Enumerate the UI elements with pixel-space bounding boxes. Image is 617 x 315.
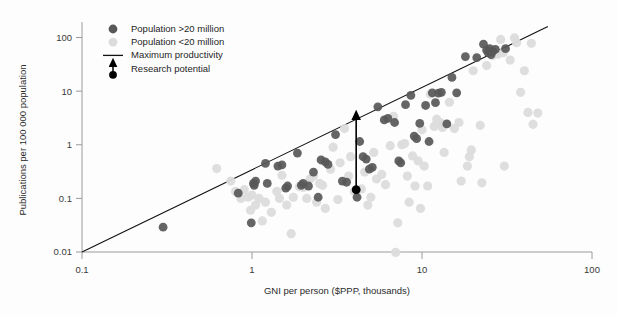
x-tick-label: 1 bbox=[249, 264, 254, 275]
y-axis-ticks: 0.010.1110100 bbox=[54, 32, 83, 258]
y-tick-label: 10 bbox=[61, 86, 72, 97]
scatter-point bbox=[437, 88, 446, 97]
scatter-point bbox=[353, 193, 362, 202]
scatter-point bbox=[362, 155, 371, 164]
y-tick-label: 0.01 bbox=[54, 246, 73, 257]
legend-marker-circle bbox=[109, 38, 118, 47]
scatter-point bbox=[506, 55, 515, 64]
scatter-point bbox=[314, 193, 323, 202]
scatter-point bbox=[234, 189, 243, 198]
y-axis-title: Publications per 100 000 population bbox=[17, 64, 28, 215]
scatter-points-large-population bbox=[159, 40, 510, 232]
scatter-point bbox=[263, 179, 272, 188]
scatter-point bbox=[463, 161, 472, 170]
scatter-point bbox=[289, 193, 298, 202]
scatter-point bbox=[415, 119, 424, 128]
scatter-point bbox=[469, 66, 478, 75]
scatter-point bbox=[277, 171, 286, 180]
scatter-point bbox=[405, 198, 414, 207]
scatter-point bbox=[226, 177, 235, 186]
scatter-point bbox=[528, 120, 537, 129]
scatter-point bbox=[393, 218, 402, 227]
scatter-point bbox=[159, 223, 168, 232]
scatter-point bbox=[406, 91, 415, 100]
scatter-point bbox=[261, 198, 270, 207]
scatter-point bbox=[261, 159, 270, 168]
scatter-point bbox=[401, 100, 410, 109]
scatter-point bbox=[423, 181, 432, 190]
scatter-plot-svg: 0.010.1110100 0.1110100 GNI per person (… bbox=[0, 0, 617, 315]
scatter-point bbox=[342, 178, 351, 187]
scatter-point bbox=[527, 39, 536, 48]
scatter-point bbox=[425, 137, 434, 146]
scatter-point bbox=[421, 101, 430, 110]
scatter-point bbox=[390, 118, 399, 127]
legend-label: Maximum productivity bbox=[131, 49, 223, 60]
scatter-point bbox=[366, 193, 375, 202]
chart-legend: Population >20 millionPopulation <20 mil… bbox=[103, 23, 224, 79]
scatter-point bbox=[282, 200, 291, 209]
scatter-point bbox=[275, 194, 284, 203]
scatter-point bbox=[467, 145, 476, 154]
scatter-point bbox=[346, 152, 355, 161]
scatter-point bbox=[496, 35, 505, 44]
scatter-point bbox=[304, 182, 313, 191]
scatter-point bbox=[440, 148, 449, 157]
scatter-point bbox=[247, 218, 256, 227]
x-tick-label: 100 bbox=[584, 264, 600, 275]
scatter-point bbox=[482, 61, 491, 70]
scatter-point bbox=[368, 163, 377, 172]
scatter-point bbox=[448, 73, 457, 82]
scatter-point bbox=[363, 200, 372, 209]
scatter-points-small-population bbox=[212, 33, 542, 257]
y-tick-label: 1 bbox=[67, 139, 72, 150]
scatter-point bbox=[331, 130, 340, 139]
scatter-point bbox=[476, 121, 485, 130]
x-axis-title: GNI per person ($PPP, thousands) bbox=[264, 285, 410, 296]
y-tick-label: 0.1 bbox=[59, 193, 72, 204]
scatter-point bbox=[391, 248, 400, 257]
scatter-point bbox=[377, 170, 386, 179]
legend-marker-circle bbox=[109, 25, 118, 34]
scatter-point bbox=[416, 204, 425, 213]
x-tick-label: 10 bbox=[417, 264, 428, 275]
scatter-point bbox=[510, 33, 519, 42]
scatter-point bbox=[369, 148, 378, 157]
x-tick-label: 0.1 bbox=[75, 264, 88, 275]
legend-label: Population <20 million bbox=[131, 36, 224, 47]
scatter-point bbox=[329, 143, 338, 152]
scatter-point bbox=[452, 88, 461, 97]
scatter-point bbox=[381, 180, 390, 189]
scatter-point bbox=[412, 134, 421, 143]
scatter-point bbox=[287, 229, 296, 238]
scatter-point bbox=[523, 108, 532, 117]
scatter-point bbox=[520, 66, 529, 75]
research-potential-base-dot bbox=[352, 185, 361, 194]
scatter-point bbox=[324, 160, 333, 169]
scatter-point bbox=[373, 102, 382, 111]
scatter-point bbox=[457, 177, 466, 186]
scatter-point bbox=[340, 124, 349, 133]
scatter-point bbox=[501, 44, 510, 53]
legend-label: Research potential bbox=[131, 63, 210, 74]
y-tick-label: 100 bbox=[56, 32, 72, 43]
scatter-point bbox=[251, 177, 260, 186]
scatter-point bbox=[461, 52, 470, 61]
scatter-point bbox=[278, 161, 287, 170]
scatter-point bbox=[442, 119, 451, 128]
scatter-point bbox=[516, 88, 525, 97]
scatter-point bbox=[293, 149, 302, 158]
scatter-point bbox=[491, 45, 500, 54]
scatter-point bbox=[396, 158, 405, 167]
scatter-point bbox=[500, 161, 509, 170]
scatter-point bbox=[336, 158, 345, 167]
scatter-point bbox=[410, 181, 419, 190]
legend-marker-arrow-dot bbox=[109, 71, 117, 79]
chart-figure: 0.010.1110100 0.1110100 GNI per person (… bbox=[0, 0, 617, 315]
scatter-point bbox=[267, 208, 276, 217]
scatter-point bbox=[333, 195, 342, 204]
scatter-point bbox=[420, 161, 429, 170]
scatter-point bbox=[212, 164, 221, 173]
scatter-point bbox=[386, 141, 395, 150]
scatter-point bbox=[321, 204, 330, 213]
